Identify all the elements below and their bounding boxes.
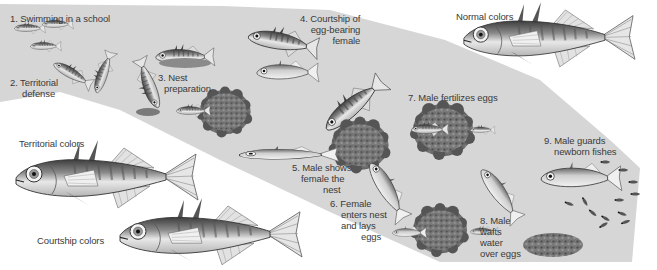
step-5-label: 5. Male shows female the nest xyxy=(292,162,351,195)
step-3-label: 3. Nest preparation xyxy=(158,72,211,94)
step-4-label: 4. Courtship of egg-bearing female xyxy=(300,13,360,46)
step-9-label: 9. Male guards newborn fishes xyxy=(544,135,617,157)
normal-colors-label: Normal colors xyxy=(456,11,513,22)
courtship-colors-label: Courtship colors xyxy=(37,235,104,246)
territorial-colors-label: Territorial colors xyxy=(19,138,84,149)
courtship-colors-fish xyxy=(120,198,302,265)
step-2-label: 2. Territorial defense xyxy=(10,77,58,99)
step-1-label: 1. Swimming in a school xyxy=(10,13,110,24)
step-8-label: 8. Male wafts water over eggs xyxy=(480,215,521,259)
step-6-label: 6. Female enters nest and lays eggs xyxy=(330,198,387,242)
step-7-label: 7. Male fertilizes eggs xyxy=(408,92,498,103)
territorial-colors-fish xyxy=(16,140,198,208)
